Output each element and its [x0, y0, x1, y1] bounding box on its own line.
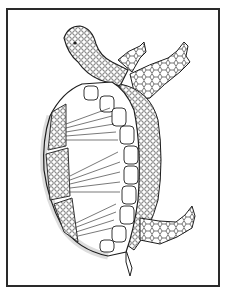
turtle-shell — [44, 82, 140, 256]
turtle-eye — [73, 41, 76, 44]
turtle-head — [64, 26, 128, 86]
turtle-tail — [126, 250, 132, 276]
turtle-illustration — [0, 0, 227, 291]
